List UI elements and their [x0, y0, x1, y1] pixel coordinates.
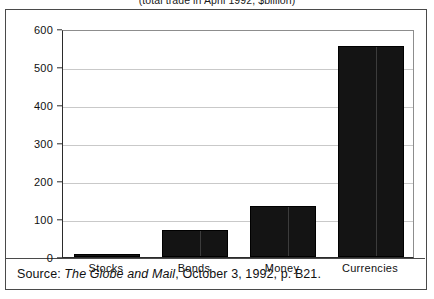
bar-chart: 0100200300400500600 StocksBondsMoneyCurr…: [6, 10, 425, 259]
source-suffix: , October 3, 1992, p. B21.: [175, 267, 321, 281]
source-publication: The Globe and Mail: [64, 267, 175, 281]
bar-texture-seam: [288, 207, 289, 256]
bars-layer: [63, 31, 413, 257]
figure-title: (total trade in April 1992, $billion): [0, 0, 434, 6]
bar: [74, 254, 140, 257]
source-prefix: Source:: [17, 267, 61, 281]
plot-area: [62, 30, 414, 258]
y-tick-label: 300: [34, 138, 53, 150]
bar-texture-seam: [376, 47, 377, 256]
y-tick-label: 200: [34, 176, 53, 188]
y-tick-label: 400: [34, 100, 53, 112]
figure-box: 0100200300400500600 StocksBondsMoneyCurr…: [5, 9, 427, 290]
bar: [338, 46, 404, 257]
bar-texture-seam: [200, 231, 201, 256]
y-axis: 0100200300400500600: [6, 10, 62, 259]
y-tick-label: 100: [34, 214, 53, 226]
source-caption: Source: The Globe and Mail, October 3, 1…: [17, 267, 321, 281]
y-tick-label: 500: [34, 62, 53, 74]
bar: [162, 230, 228, 257]
y-tick-label: 600: [34, 24, 53, 36]
source-row: Source: The Globe and Mail, October 3, 1…: [6, 259, 425, 288]
bar: [250, 206, 316, 257]
